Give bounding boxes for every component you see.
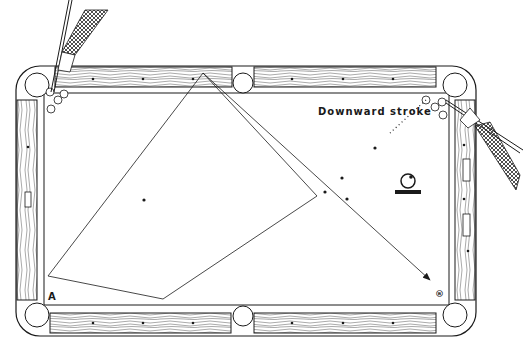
right-rail-plate-1 bbox=[463, 159, 470, 181]
pocket-top-middle bbox=[233, 73, 253, 93]
point-b-label: ® bbox=[435, 289, 444, 299]
caption-downward-stroke: Downward stroke bbox=[318, 106, 432, 117]
pool-table-diagram bbox=[0, 0, 531, 342]
right-rail-plate-2 bbox=[463, 214, 470, 236]
pocket-bottom-left bbox=[25, 303, 49, 327]
pocket-top-right bbox=[443, 73, 467, 97]
pocket-bottom-right bbox=[443, 303, 467, 327]
left-rail-plate bbox=[25, 192, 31, 207]
pocket-bottom-middle bbox=[233, 306, 253, 326]
pocket-top-left bbox=[25, 73, 49, 97]
point-a-label: A bbox=[48, 291, 56, 302]
